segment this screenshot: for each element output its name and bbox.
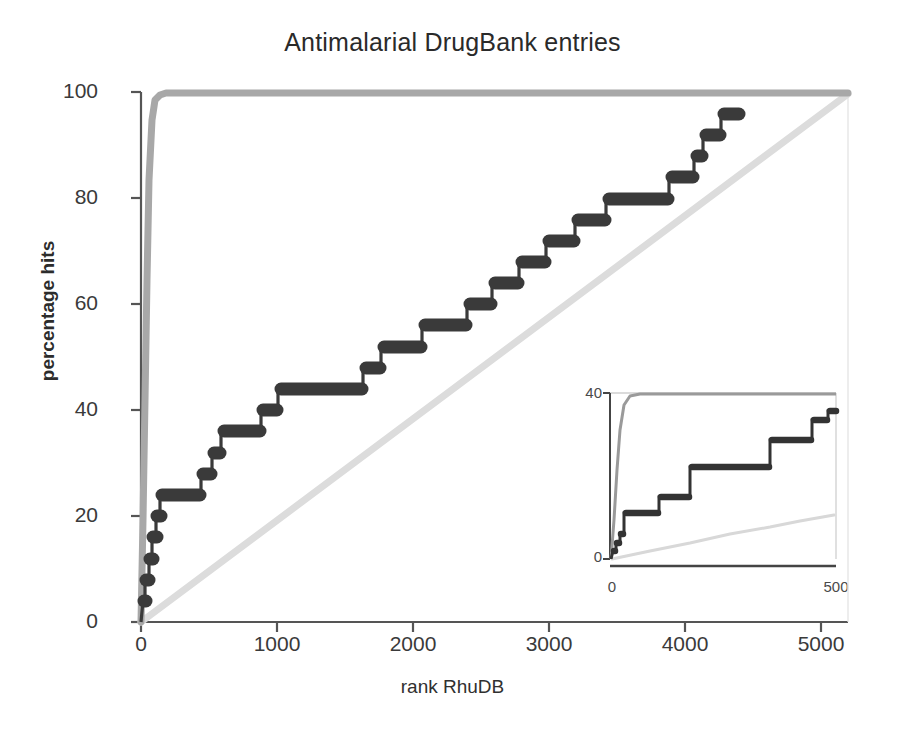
inset-chart (603, 393, 836, 566)
x-tick-marks (141, 622, 821, 632)
chart-page: Antimalarial DrugBank entries percentage… (0, 0, 905, 737)
plot-canvas (0, 0, 905, 737)
